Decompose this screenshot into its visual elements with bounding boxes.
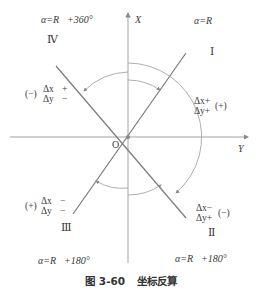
arc-quadrant-3 bbox=[96, 181, 128, 188]
arc-quadrant-1 bbox=[128, 80, 160, 90]
quadrant-3-formula: α=R⃗+180° bbox=[38, 255, 90, 266]
quadrant-4-formula: α=R⃗+360° bbox=[41, 14, 93, 25]
quadrant-3-dy: Δy bbox=[41, 206, 52, 216]
quadrant-1-numeral: Ⅰ bbox=[210, 46, 214, 57]
y-axis-label: Y bbox=[238, 143, 244, 154]
origin-label: O bbox=[112, 139, 119, 150]
quadrant-3-sign: (+) bbox=[25, 201, 37, 211]
quadrant-4-dx-sign: + bbox=[62, 84, 67, 94]
coordinate-diagram bbox=[0, 0, 262, 291]
quadrant-2-sign: (−) bbox=[218, 208, 230, 218]
arc-quadrant-4 bbox=[84, 72, 128, 91]
quadrant-1-formula: α=R⃗ bbox=[194, 15, 220, 26]
quadrant-1-dx: Δx+ bbox=[194, 96, 210, 106]
quadrant-4-dx: Δx bbox=[43, 84, 54, 94]
quadrant-1-dy: Δy+ bbox=[194, 106, 210, 116]
quadrant-2-dx: Δx− bbox=[196, 203, 212, 213]
quadrant-3-dy-sign: − bbox=[60, 206, 65, 216]
arc-quadrant-2b bbox=[128, 185, 161, 195]
line-ne-sw bbox=[73, 53, 186, 214]
line-nw-se bbox=[56, 66, 186, 218]
quadrant-3-dx-sign: − bbox=[60, 196, 65, 206]
figure-title: 坐标反算 bbox=[137, 275, 177, 287]
quadrant-2-formula: α=R⃗+180° bbox=[175, 253, 227, 264]
quadrant-1-sign: (+) bbox=[215, 101, 227, 111]
quadrant-4-dy-sign: − bbox=[62, 94, 67, 104]
quadrant-2-dy: Δy+ bbox=[196, 213, 212, 223]
quadrant-2-numeral: Ⅱ bbox=[208, 227, 215, 238]
quadrant-3-numeral: Ⅲ bbox=[61, 222, 72, 233]
quadrant-3-dx: Δx bbox=[41, 196, 52, 206]
figure-caption: 图 3-60 坐标反算 bbox=[0, 273, 262, 288]
quadrant-4-numeral: Ⅳ bbox=[47, 34, 58, 45]
quadrant-4-sign: (−) bbox=[25, 89, 37, 99]
quadrant-4-dy: Δy bbox=[43, 94, 54, 104]
figure-number: 图 3-60 bbox=[85, 275, 125, 287]
x-axis-label: X bbox=[135, 14, 141, 25]
